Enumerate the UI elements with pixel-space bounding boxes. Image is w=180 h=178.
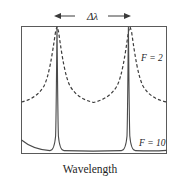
delta-lambda-annotation: Δλ: [54, 10, 131, 22]
spectral-fringe-figure: Δλ F = 2 F = 10 Wavelength: [0, 0, 180, 178]
figure-canvas: Δλ F = 2 F = 10 Wavelength: [0, 0, 180, 178]
plot-frame: [22, 27, 167, 154]
arrow-head-left-icon: [54, 13, 61, 19]
series-label-finesse-10: F = 10: [138, 138, 166, 148]
series-label-finesse-2: F = 2: [140, 53, 163, 63]
arrow-head-right-icon: [124, 13, 131, 19]
curve-finesse-10: [22, 27, 167, 151]
curve-finesse-2: [22, 27, 167, 103]
x-axis-label: Wavelength: [63, 163, 118, 176]
delta-lambda-label: Δλ: [86, 10, 98, 22]
